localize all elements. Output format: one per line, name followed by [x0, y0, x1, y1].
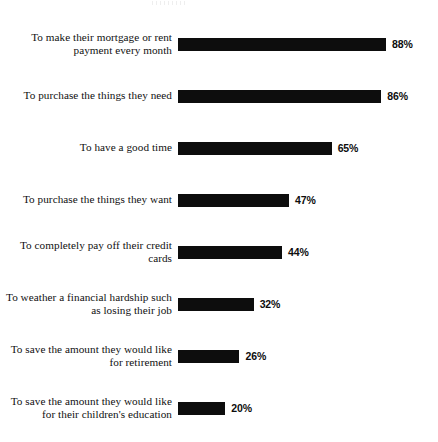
bar — [178, 402, 225, 415]
bar-category-label: To weather a financial hardship such as … — [0, 291, 178, 318]
bar-value-label: 26% — [245, 350, 266, 362]
bar — [178, 90, 381, 103]
bar-track: 88% — [178, 22, 438, 66]
bar — [178, 350, 239, 363]
bar-category-label: To purchase the things they want — [0, 193, 178, 206]
bar-value-label: 86% — [387, 90, 408, 102]
bar-value-label: 88% — [392, 38, 413, 50]
bar — [178, 38, 386, 51]
bar-value-label: 20% — [231, 402, 252, 414]
bar-category-label: To save the amount they would like for r… — [0, 343, 178, 370]
bar — [178, 194, 289, 207]
bar-track: 20% — [178, 386, 438, 430]
bar-row: To completely pay off their credit cards… — [0, 230, 438, 274]
scan-artifact — [152, 1, 188, 5]
bar — [178, 298, 254, 311]
bar-chart: To make their mortgage or rent payment e… — [0, 0, 438, 442]
bar — [178, 246, 282, 259]
bar-category-label: To save the amount they would like for t… — [0, 395, 178, 422]
bar-value-label: 32% — [260, 298, 281, 310]
bar-track: 26% — [178, 334, 438, 378]
bar-category-label: To purchase the things they need — [0, 89, 178, 102]
bar-row: To have a good time65% — [0, 126, 438, 170]
bar — [178, 142, 332, 155]
bar-value-label: 47% — [295, 194, 316, 206]
bar-value-label: 65% — [338, 142, 359, 154]
bar-row: To weather a financial hardship such as … — [0, 282, 438, 326]
bar-row: To save the amount they would like for t… — [0, 386, 438, 430]
bar-category-label: To completely pay off their credit cards — [0, 239, 178, 266]
bar-track: 47% — [178, 178, 438, 222]
bar-category-label: To have a good time — [0, 141, 178, 154]
bar-track: 32% — [178, 282, 438, 326]
bar-row: To purchase the things they need86% — [0, 74, 438, 118]
bar-track: 44% — [178, 230, 438, 274]
bar-value-label: 44% — [288, 246, 309, 258]
bar-row: To make their mortgage or rent payment e… — [0, 22, 438, 66]
bar-row: To purchase the things they want47% — [0, 178, 438, 222]
bar-category-label: To make their mortgage or rent payment e… — [0, 31, 178, 58]
bar-track: 86% — [178, 74, 438, 118]
bar-track: 65% — [178, 126, 438, 170]
bar-row: To save the amount they would like for r… — [0, 334, 438, 378]
